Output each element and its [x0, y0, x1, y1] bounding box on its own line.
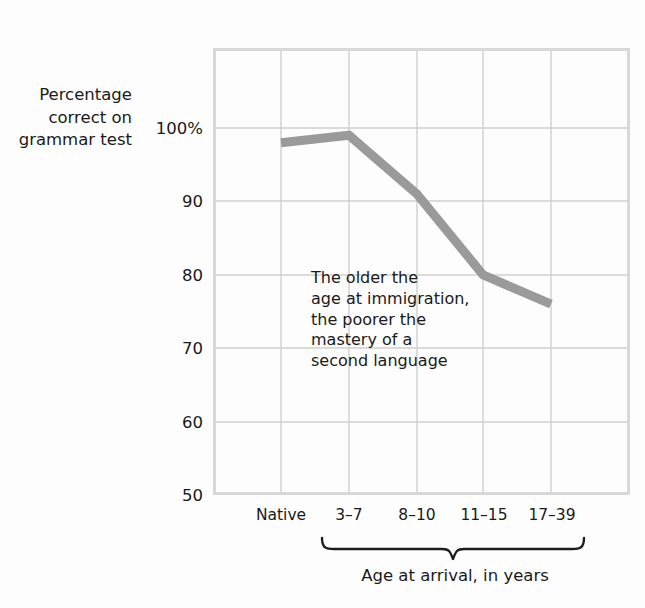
y-tick-label-100: 100% [137, 119, 203, 138]
x-tick-label-11-15: 11–15 [460, 506, 507, 524]
x-axis-tick-labels: Native 3–7 8–10 11–15 17–39 [0, 506, 645, 532]
brace-icon [318, 536, 588, 562]
y-tick-label-50: 50 [137, 486, 203, 505]
x-tick-label-3-7: 3–7 [335, 506, 362, 524]
x-axis-title: Age at arrival, in years [361, 566, 549, 585]
y-tick-label-70: 70 [137, 339, 203, 358]
x-tick-label-17-39: 17–39 [528, 506, 575, 524]
y-axis-title: Percentage correct on grammar test [0, 84, 132, 152]
y-tick-label-90: 90 [137, 192, 203, 211]
y-tick-label-60: 60 [137, 413, 203, 432]
x-axis-brace [318, 536, 588, 562]
x-tick-label-native: Native [256, 506, 306, 524]
chart-container: Percentage correct on grammar test 100% … [0, 0, 645, 608]
chart-annotation: The older the age at immigration, the po… [311, 268, 469, 372]
x-tick-label-8-10: 8–10 [398, 506, 435, 524]
y-tick-label-80: 80 [137, 266, 203, 285]
